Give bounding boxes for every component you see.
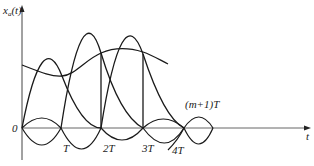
lobe-lower-3T-4T — [143, 128, 184, 143]
lobe-upper-4T-m1T — [184, 117, 213, 128]
origin-label: 0 — [12, 122, 18, 134]
tick-label-3T: 3T — [141, 142, 155, 154]
tick-label-2T: 2T — [103, 142, 116, 154]
tick-label-T: T — [63, 142, 70, 154]
y-axis-label: xa(t) — [2, 4, 22, 18]
lobe-lower-0-T — [22, 128, 61, 145]
annotation-m-plus-1-T: (m+1)T — [185, 98, 220, 111]
lobe-lower-2T-3T — [101, 128, 143, 140]
lobe-upper-3T-4T — [143, 119, 184, 128]
lobe-upper-0-T — [22, 118, 61, 128]
t-axis-label: t — [306, 130, 310, 142]
lobe-lower-4T-m1T — [184, 128, 213, 144]
interpolation-diagram: xa(t) t 0 T 2T 3T 4T (m+1)T — [0, 0, 314, 166]
arch-T-3T — [61, 33, 143, 128]
tick-label-4T: 4T — [172, 144, 185, 156]
